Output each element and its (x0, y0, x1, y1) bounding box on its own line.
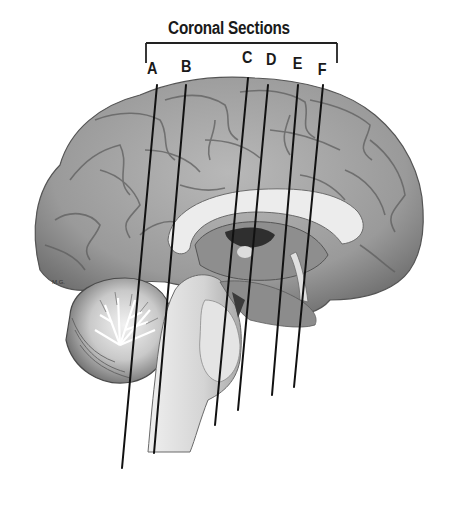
section-label-e: E (293, 54, 303, 74)
section-label-b: B (181, 57, 191, 77)
brainstem (148, 275, 316, 452)
section-label-d: D (266, 50, 276, 70)
diagram-title: Coronal Sections (36, 18, 421, 39)
brain-illustration: M.G. (0, 0, 453, 507)
brain-diagram: M.G. Coronal Sections A B C D E F (0, 0, 453, 507)
section-label-c: C (242, 48, 252, 68)
section-label-f: F (318, 60, 327, 80)
section-label-a: A (147, 59, 157, 79)
artist-signature: M.G. (52, 279, 65, 285)
